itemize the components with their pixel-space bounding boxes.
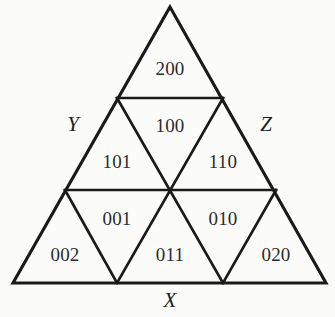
cell-label-010: 010	[208, 208, 237, 229]
cell-label-110: 110	[209, 151, 237, 172]
vertex-label-z: Z	[260, 112, 272, 136]
cell-label-011: 011	[156, 244, 184, 265]
cell-label-101: 101	[102, 151, 131, 172]
vertex-label-y: Y	[67, 112, 81, 136]
cell-label-020: 020	[261, 244, 290, 265]
cell-label-002: 002	[50, 244, 79, 265]
cell-label-001: 001	[102, 208, 131, 229]
vertex-label-x: X	[163, 288, 178, 312]
cell-label-100: 100	[155, 115, 184, 136]
triangle-face	[13, 7, 326, 283]
triangle-diagram-svg: 200 100 101 110 001 010 002 011 020 Y Z …	[0, 0, 335, 317]
cell-label-200: 200	[155, 58, 184, 79]
triangle-figure: 200 100 101 110 001 010 002 011 020 Y Z …	[0, 0, 335, 317]
